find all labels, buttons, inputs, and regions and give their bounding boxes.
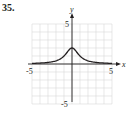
x-tick-label-neg5: -5	[26, 67, 33, 76]
axis-labels: xy-555-5	[26, 5, 126, 109]
y-tick-label-neg5: -5	[61, 100, 68, 109]
x-axis-label: x	[121, 60, 126, 69]
y-axis-label: y	[69, 5, 74, 14]
x-tick-label-5: 5	[109, 67, 113, 76]
x-axis-arrow-icon	[116, 62, 121, 66]
function-graph: xy-555-5	[0, 0, 131, 115]
y-tick-label-5: 5	[65, 20, 69, 29]
axes	[28, 13, 121, 102]
